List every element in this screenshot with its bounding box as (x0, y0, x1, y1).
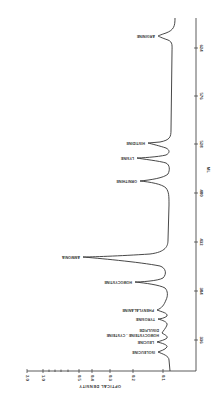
od-tick-0.1: 0.1 (161, 375, 166, 381)
peak-label-hcc-disulfide-line1: HOMOCYSTEINE - CYSTEINE (106, 333, 159, 337)
ml-axis-tick-labels: 336 384 432 480 528 576 624 (199, 45, 204, 345)
peak-label-leucine: LEUCINE (137, 340, 154, 344)
peak-label-isoleucine: ISOLEUCINE (132, 350, 155, 354)
od-tick-0.5: 0.5 (77, 375, 82, 381)
od-tick-1.0: 1.0 (41, 375, 46, 381)
peak-label-histidine: HISTIDINE (126, 141, 145, 145)
peak-label-ornithine: ORNITHINE (116, 179, 137, 183)
ml-tick-624: 624 (199, 45, 204, 53)
ml-tick-432: 432 (199, 239, 204, 247)
chromatogram-chart: 336 384 432 480 528 576 624 ML 2.0 1.0 0… (0, 0, 224, 401)
peak-label-lysine: LYSINE (120, 156, 134, 160)
peak-label-arginine: ARGININE (136, 34, 155, 38)
peak-label-ammonia: AMMONIA (61, 255, 80, 259)
od-tick-0.4: 0.4 (90, 375, 95, 381)
peak-labels: ARGININE HISTIDINE LYSINE ORNITHINE AMMO… (61, 34, 159, 354)
od-axis-title: OPTICAL DENSITY (79, 384, 121, 389)
peak-label-homocystine: HOMOCYSTINE (104, 280, 132, 284)
peak-label-hcc-disulfide-line2: DISULFIDE (139, 328, 159, 332)
ml-tick-480: 480 (199, 190, 204, 198)
od-axis-tick-labels: 2.0 1.0 0.5 0.4 0.3 0.2 0.1 (25, 375, 166, 381)
ml-tick-528: 528 (199, 141, 204, 149)
ml-axis-title: ML (206, 167, 211, 174)
od-tick-0.3: 0.3 (108, 375, 113, 381)
peak-label-tyrosine: TYROSINE (135, 317, 155, 321)
chromatogram-trace (83, 18, 175, 371)
ml-tick-576: 576 (199, 93, 204, 101)
axes (27, 18, 196, 371)
peak-label-phenylalanine: PHENYLALANINE (122, 308, 154, 312)
od-tick-2.0: 2.0 (25, 375, 30, 381)
od-tick-0.2: 0.2 (131, 375, 136, 381)
ml-tick-336: 336 (199, 337, 204, 345)
ml-tick-384: 384 (199, 288, 204, 296)
